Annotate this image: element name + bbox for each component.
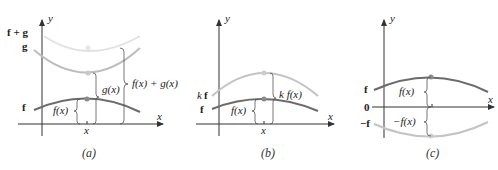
point-kf — [262, 71, 267, 76]
tick-label-x: x — [260, 124, 266, 136]
brace-f — [424, 77, 431, 107]
x-axis-label: x — [327, 110, 333, 122]
vector-addition-diagram: y x f + g g f x f(x) g(x) f(x) + g(x) (a… — [0, 0, 498, 170]
label-g: g — [22, 40, 28, 52]
caption-a: (a) — [82, 146, 96, 160]
brace-neg-f — [424, 107, 431, 136]
brace-label-f-plus-g: f(x) + g(x) — [132, 77, 178, 90]
point-f — [85, 97, 90, 102]
brace-f — [74, 99, 80, 124]
brace-label-neg-f: −f(x) — [393, 115, 416, 128]
label-kf-f: f — [204, 89, 208, 101]
tick-label-x: x — [83, 124, 89, 136]
x-axis-label: x — [487, 93, 493, 105]
panel-a: y x f + g g f x f(x) g(x) f(x) + g(x) (a… — [7, 12, 178, 160]
curve-f — [374, 77, 488, 92]
label-kf-k: k — [197, 89, 203, 101]
brace-label-kf: k f(x) — [279, 88, 302, 101]
label-zero: 0 — [364, 101, 370, 113]
brace-f — [252, 99, 258, 124]
y-axis-label: y — [224, 12, 230, 24]
brace-label-f: f(x) — [231, 104, 247, 117]
caption-c: (c) — [426, 146, 439, 160]
brace-label-g: g(x) — [102, 83, 120, 96]
caption-b: (b) — [261, 146, 275, 160]
label-f: f — [364, 83, 368, 95]
curve-f-plus-g — [44, 36, 140, 51]
point-f-plus-g — [86, 46, 91, 51]
label-neg-f: −f — [360, 117, 370, 129]
y-axis-label: y — [389, 12, 395, 24]
label-f-plus-g: f + g — [7, 26, 28, 38]
x-axis-label: x — [156, 110, 162, 122]
label-f: f — [22, 101, 26, 113]
panel-c: y x f 0 −f f(x) −f(x) (c) — [360, 12, 494, 160]
y-axis-label: y — [47, 12, 53, 24]
brace-label-f: f(x) — [53, 104, 69, 117]
point-g — [86, 71, 91, 76]
label-f: f — [200, 103, 204, 115]
point-f — [262, 97, 267, 102]
panel-b: y x k f f x f(x) k f(x) (b) — [196, 12, 334, 160]
curve-kf — [212, 73, 318, 96]
brace-label-f: f(x) — [399, 85, 415, 98]
